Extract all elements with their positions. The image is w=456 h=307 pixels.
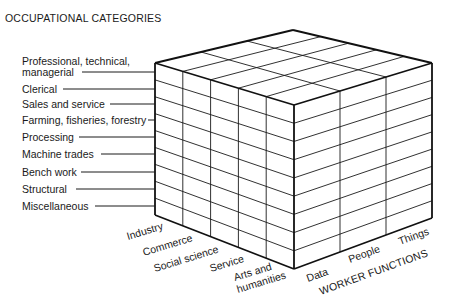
grid-line: [294, 166, 432, 214]
grid-line: [155, 114, 294, 160]
interest-label-industry: Industry: [125, 219, 165, 242]
category-label-clerical: Clerical: [22, 83, 57, 95]
category-label-processing: Processing: [22, 131, 74, 143]
category-label-farming: Farming, fisheries, forestry: [22, 114, 147, 126]
category-label-structural: Structural: [22, 183, 67, 195]
category-label-bench-work: Bench work: [22, 166, 78, 178]
occupational-categories-title: OCCUPATIONAL CATEGORIES: [5, 12, 161, 24]
worker-function-things: Things: [397, 225, 431, 247]
cube: [155, 30, 432, 269]
occupational-cube-diagram: OCCUPATIONAL CATEGORIES Professional, te…: [0, 0, 456, 307]
grid-line: [294, 80, 432, 123]
worker-function-labels: Data People Things WORKER FUNCTIONS: [305, 225, 431, 297]
category-label-miscellaneous: Miscellaneous: [22, 200, 89, 212]
grid-line: [201, 52, 340, 91]
grid-line: [294, 115, 432, 160]
category-label-sales: Sales and service: [22, 98, 105, 110]
grid-line: [155, 97, 294, 142]
grid-line: [294, 97, 432, 141]
worker-function-data: Data: [305, 265, 330, 284]
category-label-machine-trades: Machine trades: [22, 148, 94, 160]
grid-line: [155, 131, 294, 178]
grid-line: [294, 149, 432, 196]
worker-function-people: People: [347, 242, 382, 265]
cube-edge: [155, 63, 294, 105]
category-label-professional-line2: managerial: [22, 66, 74, 78]
grid-line: [294, 132, 432, 178]
occupational-category-labels: Professional, technical, managerial Cler…: [22, 55, 155, 212]
grid-line: [155, 80, 294, 123]
